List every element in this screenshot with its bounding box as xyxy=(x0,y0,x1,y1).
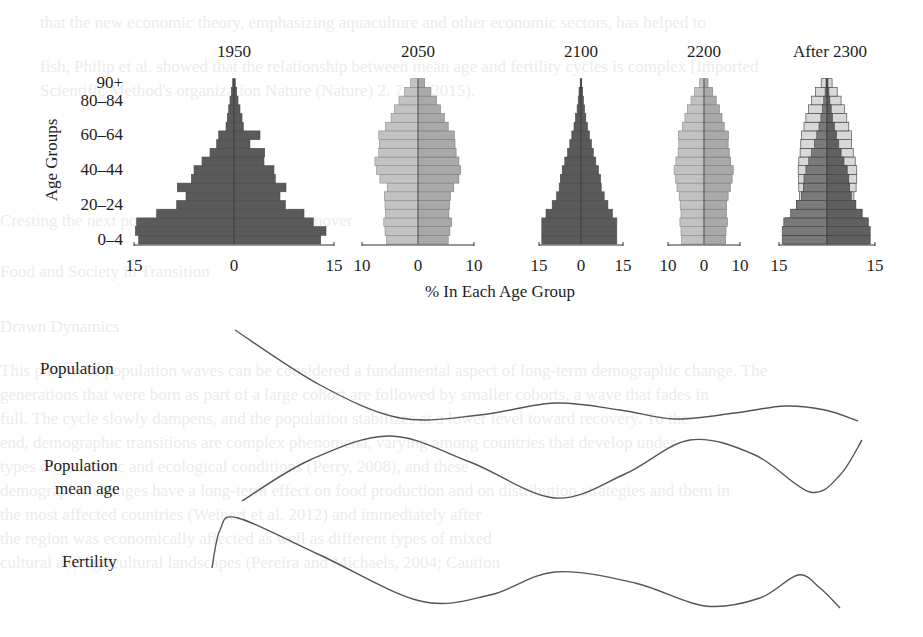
age-tick-label: 40–44 xyxy=(81,160,124,179)
pyramid-bar xyxy=(704,166,733,175)
pyramid-bar xyxy=(375,157,418,166)
pyramid-bar xyxy=(568,148,581,157)
pyramid-bar xyxy=(827,140,839,149)
pyramid-bar xyxy=(704,79,708,88)
pyramid-bar xyxy=(231,87,234,96)
pyramid-bar xyxy=(570,140,581,149)
x-tick-label: 10 xyxy=(354,256,371,275)
pyramid-bar xyxy=(680,201,704,210)
x-tick-label: 0 xyxy=(230,256,239,275)
age-tick-label: 20–24 xyxy=(81,195,124,214)
pyramid-bar xyxy=(411,79,418,88)
pyramid-bar xyxy=(827,131,837,140)
pyramid-bar xyxy=(234,96,238,105)
pyramid-bar xyxy=(384,218,418,227)
pyramid-bar xyxy=(226,122,234,131)
pyramid-bar xyxy=(827,148,841,157)
pyramid-bar xyxy=(418,114,444,123)
pyramid-bar xyxy=(418,218,452,227)
pyramid-bar xyxy=(581,96,584,105)
pyramid-bar xyxy=(418,96,437,105)
pyramid-bar xyxy=(418,140,455,149)
pyramid-bar xyxy=(704,114,722,123)
pyramid-bar xyxy=(194,166,234,175)
pyramid-bar xyxy=(827,96,830,105)
pyramid-bar xyxy=(418,157,459,166)
pyramid-bar xyxy=(823,105,828,114)
pyramid-bar xyxy=(234,227,326,236)
pyramid-bar xyxy=(234,235,321,244)
pyramid-bar xyxy=(234,87,237,96)
pyramid-bar xyxy=(809,157,827,166)
pyramid-bar xyxy=(230,96,234,105)
pyramid-bar xyxy=(678,131,704,140)
pyramid-bar xyxy=(827,235,870,244)
pyramid-bar xyxy=(827,157,844,166)
pyramid-bar xyxy=(676,157,704,166)
pyramid-bar xyxy=(581,157,596,166)
pyramid-bar xyxy=(827,201,856,210)
x-tick-label: 0 xyxy=(414,256,423,275)
pyramid-bar xyxy=(377,166,418,175)
pyramid-bar xyxy=(229,105,234,114)
pyramid-bar xyxy=(234,131,260,140)
x-tick-label: 15 xyxy=(771,256,788,275)
pyramid-bar xyxy=(234,166,274,175)
age-tick-label: 60–64 xyxy=(81,125,124,144)
pyramid-1950: 195015015 xyxy=(126,42,343,275)
fertility-curve xyxy=(212,517,840,608)
pyramid-bar xyxy=(542,227,581,236)
mean-age-curve-label-line2: mean age xyxy=(55,479,120,498)
pyramid-bar xyxy=(782,235,827,244)
pyramid-bar xyxy=(827,174,849,183)
pyramid-bar xyxy=(680,218,704,227)
pyramid-bar xyxy=(581,122,587,131)
population-pyramid-figure: 195015015205010010210015015220010010Afte… xyxy=(0,0,923,637)
age-tick-label: 0–4 xyxy=(98,230,124,249)
pyramid-bar xyxy=(827,227,870,236)
pyramid-bar xyxy=(385,227,418,236)
x-tick-label: 15 xyxy=(867,256,884,275)
pyramid-bar xyxy=(418,183,454,192)
x-tick-label: 10 xyxy=(466,256,483,275)
pyramid-bar xyxy=(386,209,419,218)
pyramid-bar xyxy=(418,192,451,201)
fertility-curve-label: Fertility xyxy=(62,552,117,571)
age-tick-label: 80–84 xyxy=(81,91,124,110)
pyramid-bar xyxy=(827,209,862,218)
pyramid-2100: 210015015 xyxy=(531,42,632,275)
pyramid-bar xyxy=(704,218,727,227)
pyramid-bar xyxy=(704,87,713,96)
pyramid-bar xyxy=(574,122,581,131)
pyramid-bar xyxy=(581,166,599,175)
pyramid-bar xyxy=(806,166,827,175)
pyramid-bar xyxy=(704,140,728,149)
pyramid-title: 2200 xyxy=(687,42,721,61)
pyramid-bar xyxy=(395,105,419,114)
population-curve xyxy=(235,330,858,421)
trend-curves xyxy=(212,330,862,608)
pyramid-bar xyxy=(681,209,704,218)
pyramid-bar xyxy=(418,105,440,114)
pyramid-bar xyxy=(234,174,275,183)
pyramid-bar xyxy=(700,79,704,88)
pyramid-bar xyxy=(418,201,449,210)
pyramid-2200: 220010010 xyxy=(660,42,749,275)
pyramid-bar xyxy=(391,114,418,123)
pyramid-bar xyxy=(380,174,418,183)
pyramid-title: After 2300 xyxy=(793,42,867,61)
pyramid-bar xyxy=(704,192,728,201)
pyramid-after-2300: After 23001515 xyxy=(771,42,884,275)
pyramid-bar xyxy=(827,192,851,201)
pyramid-bar xyxy=(234,114,242,123)
pyramid-bar xyxy=(542,218,581,227)
pyramid-bar xyxy=(234,148,265,157)
pyramid-bar xyxy=(139,235,234,244)
x-tick-label: 15 xyxy=(531,256,548,275)
pyramid-bar xyxy=(234,218,313,227)
pyramid-bar xyxy=(560,174,581,183)
pyramid-bar xyxy=(177,201,234,210)
pyramid-title: 1950 xyxy=(217,42,251,61)
pyramid-2050: 205010010 xyxy=(354,42,483,275)
pyramid-bar xyxy=(815,140,828,149)
